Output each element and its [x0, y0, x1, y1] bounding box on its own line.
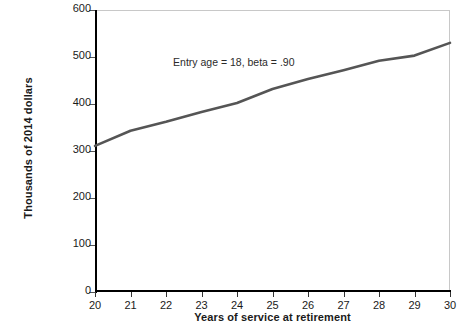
x-tick-mark: [415, 292, 416, 297]
chart-annotation: Entry age = 18, beta = .90: [173, 56, 294, 68]
chart-figure: Thousands of 2014 dollars 01002003004005…: [0, 0, 462, 328]
x-tick-label: 26: [302, 299, 314, 311]
x-tick-mark: [273, 292, 274, 297]
x-tick-mark: [95, 292, 96, 297]
y-tick-label: 400: [73, 96, 91, 108]
x-tick-mark: [450, 292, 451, 297]
y-tick-label: 100: [73, 237, 91, 249]
y-axis-title: Thousands of 2014 dollars: [22, 38, 34, 258]
x-tick-mark: [308, 292, 309, 297]
x-axis-title: Years of service at retirement: [95, 311, 450, 323]
y-tick-label: 0: [85, 284, 91, 296]
y-tick-label: 300: [73, 143, 91, 155]
y-tick-label: 500: [73, 49, 91, 61]
x-tick-label: 25: [266, 299, 278, 311]
x-tick-label: 28: [373, 299, 385, 311]
x-tick-mark: [166, 292, 167, 297]
x-tick-mark: [237, 292, 238, 297]
x-tick-label: 29: [408, 299, 420, 311]
x-tick-label: 27: [337, 299, 349, 311]
plot-area: 0100200300400500600 20212223242526272829…: [95, 10, 450, 292]
x-tick-label: 23: [195, 299, 207, 311]
x-tick-mark: [344, 292, 345, 297]
x-tick-label: 22: [160, 299, 172, 311]
x-tick-label: 30: [444, 299, 456, 311]
y-tick-label: 600: [73, 2, 91, 14]
y-tick-label: 200: [73, 190, 91, 202]
x-tick-label: 21: [124, 299, 136, 311]
x-tick-mark: [202, 292, 203, 297]
x-tick-mark: [131, 292, 132, 297]
x-tick-mark: [379, 292, 380, 297]
x-tick-label: 24: [231, 299, 243, 311]
x-tick-label: 20: [89, 299, 101, 311]
data-series-line: [95, 10, 450, 292]
